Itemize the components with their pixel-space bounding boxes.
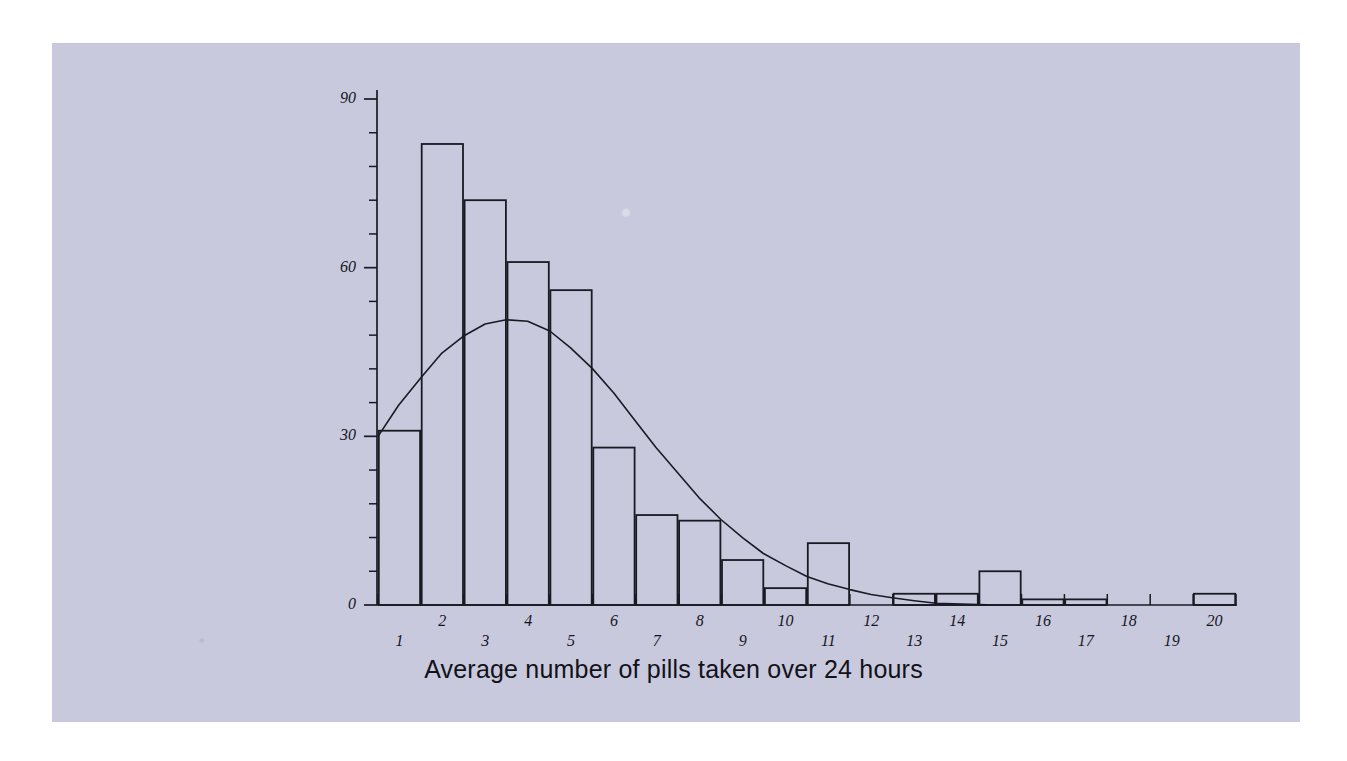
histogram-bar	[593, 448, 634, 605]
x-tick-label: 15	[978, 632, 1022, 650]
x-tick-label: 2	[420, 612, 464, 630]
x-tick-label: 6	[592, 612, 636, 630]
x-tick-label: 9	[721, 632, 765, 650]
x-axis-title: Average number of pills taken over 24 ho…	[0, 655, 1347, 684]
x-tick-label: 8	[678, 612, 722, 630]
histogram-bar	[979, 571, 1020, 605]
x-tick-label: 12	[849, 612, 893, 630]
y-tick-label: 90	[296, 89, 356, 107]
histogram-bar	[465, 200, 506, 605]
histogram-bar	[765, 588, 806, 605]
x-tick-label: 20	[1193, 612, 1237, 630]
histogram-bar	[508, 262, 549, 605]
normal-curve	[378, 320, 987, 605]
histogram-bar	[722, 560, 763, 605]
x-tick-label: 5	[549, 632, 593, 650]
x-tick-label: 10	[764, 612, 808, 630]
x-tick-label: 19	[1150, 632, 1194, 650]
y-tick-label: 30	[296, 426, 356, 444]
histogram-bar	[636, 515, 677, 605]
x-tick-label: 3	[463, 632, 507, 650]
histogram-bar	[1065, 599, 1106, 605]
histogram-bar	[1194, 594, 1235, 605]
x-tick-label: 7	[635, 632, 679, 650]
x-tick-label: 17	[1064, 632, 1108, 650]
x-tick-label: 11	[806, 632, 850, 650]
y-tick-label: 60	[296, 258, 356, 276]
x-tick-label: 13	[892, 632, 936, 650]
histogram-bar	[679, 521, 720, 605]
histogram-bar	[379, 431, 420, 605]
histogram-bar	[422, 144, 463, 605]
x-tick-label: 4	[506, 612, 550, 630]
histogram-bar	[1022, 599, 1063, 605]
x-tick-label: 16	[1021, 612, 1065, 630]
figure-canvas: 03060901234567891011121314151617181920 A…	[0, 0, 1347, 761]
y-tick-label: 0	[296, 595, 356, 613]
histogram-bar	[808, 543, 849, 605]
x-tick-label: 18	[1107, 612, 1151, 630]
x-tick-label: 1	[377, 632, 421, 650]
x-tick-label: 14	[935, 612, 979, 630]
